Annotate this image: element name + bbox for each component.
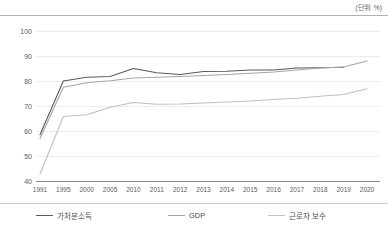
x-axis-ticks: 1991199520002005201020112012201320142015… [0, 186, 388, 200]
x-tick-label: 2017 [290, 186, 304, 193]
legend-label: 가처분소득 [57, 210, 92, 221]
legend-divider [0, 203, 388, 204]
y-tick-label: 70 [12, 103, 32, 110]
x-tick-label: 2012 [173, 186, 187, 193]
legend-item[interactable]: 가처분소득 [36, 210, 92, 221]
line-chart-svg [0, 18, 388, 186]
y-tick-label: 50 [12, 153, 32, 160]
unit-note: (단위: %) [355, 2, 382, 12]
x-tick-label: 1995 [56, 186, 70, 193]
y-tick-label: 90 [12, 53, 32, 60]
y-tick-label: 80 [12, 78, 32, 85]
x-tick-label: 2020 [360, 186, 374, 193]
legend-line-swatch [268, 215, 285, 216]
top-divider [0, 15, 388, 16]
x-tick-label: 2010 [126, 186, 140, 193]
x-tick-label: 2000 [79, 186, 93, 193]
series-line [40, 61, 367, 139]
y-tick-label: 60 [12, 128, 32, 135]
chart-root: (단위: %) 19911995200020052010201120122013… [0, 0, 388, 226]
legend-line-swatch [168, 215, 185, 216]
x-tick-label: 2019 [336, 186, 350, 193]
legend-item[interactable]: GDP [168, 211, 205, 220]
x-tick-label: 2015 [243, 186, 257, 193]
x-tick-label: 2016 [266, 186, 280, 193]
y-tick-label: 100 [12, 28, 32, 35]
legend-line-swatch [36, 215, 53, 216]
x-tick-label: 2014 [220, 186, 234, 193]
x-tick-label: 2013 [196, 186, 210, 193]
x-tick-label: 2011 [150, 186, 164, 193]
x-tick-label: 2005 [103, 186, 117, 193]
x-tick-label: 1991 [33, 186, 47, 193]
legend-item[interactable]: 근로자 보수 [268, 210, 326, 221]
chart-legend: 가처분소득GDP근로자 보수 [0, 206, 388, 224]
y-tick-label: 40 [12, 178, 32, 185]
plot-area [0, 18, 388, 186]
legend-label: 근로자 보수 [289, 210, 326, 221]
x-tick-label: 2018 [313, 186, 327, 193]
series-line [40, 67, 344, 135]
legend-label: GDP [189, 211, 205, 220]
